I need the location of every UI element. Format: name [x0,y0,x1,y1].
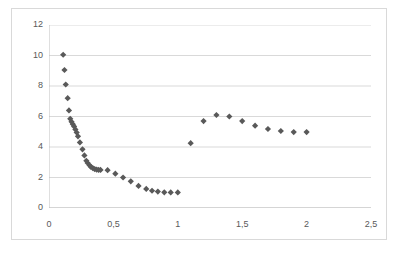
data-point-marker [304,129,310,135]
x-axis-tick-label: 0,5 [98,220,128,229]
data-point-marker [155,188,161,194]
data-point-marker [291,129,297,135]
data-point-marker [149,188,155,194]
data-point-marker [60,52,66,58]
data-point-marker [135,183,141,189]
data-point-marker [65,95,71,101]
data-point-marker [265,126,271,132]
y-axis-tick-label: 12 [19,20,43,29]
x-axis-tick-label: 1 [163,220,193,229]
scatter-plot-canvas [49,25,371,208]
data-point-marker [200,118,206,124]
x-axis-tick-label: 2,5 [356,220,386,229]
y-axis-tick-label: 6 [19,112,43,121]
data-point-marker [128,178,134,184]
data-point-marker [213,112,219,118]
data-point-marker [143,186,149,192]
y-axis-tick-label: 0 [19,203,43,212]
data-point-marker [188,140,194,146]
data-point-marker [61,67,67,73]
y-axis-tick-label: 8 [19,81,43,90]
x-axis-tick-label: 1,5 [227,220,257,229]
data-point-marker [175,189,181,195]
data-point-marker [81,152,87,158]
data-point-marker [239,118,245,124]
data-point-marker [66,107,72,113]
data-point-marker [226,113,232,119]
x-axis-tick-label: 2 [292,220,322,229]
plot-area [49,25,371,208]
x-axis-tick-label: 0 [34,220,64,229]
data-point-marker [168,189,174,195]
y-axis-tick-label: 10 [19,51,43,60]
data-point-marker [161,189,167,195]
y-axis-tick-label: 4 [19,142,43,151]
data-point-marker [105,167,111,173]
data-point-marker [77,139,83,145]
data-point-marker [63,81,69,87]
data-point-marker [120,174,126,180]
y-axis-tick-label: 2 [19,173,43,182]
data-point-marker [112,171,118,177]
data-point-marker [252,123,258,129]
data-point-marker [278,128,284,134]
chart-figure: 024681012 00,511,522,5 [0,0,399,255]
